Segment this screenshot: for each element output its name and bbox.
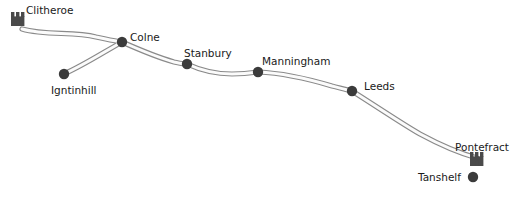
place-label-colne: Colne xyxy=(130,31,160,43)
place-label-pontefract: Pontefract xyxy=(455,141,509,153)
place-label-clitheroe: Clitheroe xyxy=(26,4,73,16)
place-label-manningham: Manningham xyxy=(262,55,330,67)
node-dot-leeds[interactable] xyxy=(347,86,357,96)
castle-icon-clitheroe[interactable] xyxy=(11,12,24,26)
castle-gate xyxy=(16,20,19,26)
node-dot-manningham[interactable] xyxy=(253,67,263,77)
route-map: Clitheroe Colne Igntinhill Stanbury Mann… xyxy=(0,0,516,201)
place-label-tanshelf: Tanshelf xyxy=(417,171,461,183)
road-stanbury-manningham-fill xyxy=(187,64,258,74)
node-dot-colne[interactable] xyxy=(117,37,127,47)
labels-layer: Clitheroe Colne Igntinhill Stanbury Mann… xyxy=(26,4,509,183)
place-label-igntinhill: Igntinhill xyxy=(51,84,97,96)
castle-merlon-right xyxy=(21,12,24,17)
place-label-leeds: Leeds xyxy=(364,80,395,92)
castle-gate xyxy=(475,160,478,166)
castle-merlon-left xyxy=(11,12,14,17)
place-label-stanbury: Stanbury xyxy=(184,47,232,59)
castle-merlon-mid xyxy=(16,12,19,17)
markers-layer xyxy=(11,12,483,182)
node-dot-igntinhill[interactable] xyxy=(59,69,69,79)
castle-icon-pontefract[interactable] xyxy=(470,152,483,166)
road-igntinhill-colne-fill xyxy=(64,42,122,74)
map-canvas: Clitheroe Colne Igntinhill Stanbury Mann… xyxy=(0,0,516,201)
node-dot-tanshelf[interactable] xyxy=(468,172,478,182)
node-dot-stanbury[interactable] xyxy=(182,59,192,69)
